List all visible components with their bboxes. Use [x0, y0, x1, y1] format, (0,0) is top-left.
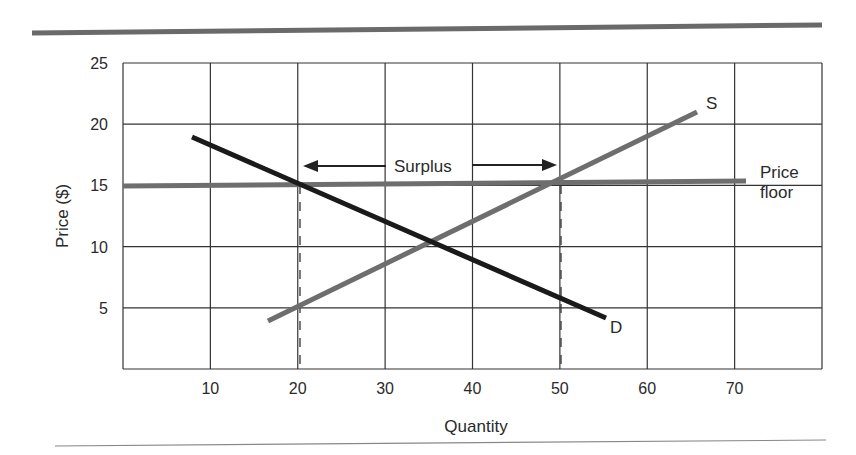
supply-curve: [268, 112, 697, 321]
x-axis-title: Quantity: [444, 417, 508, 436]
y-tick-label: 10: [90, 239, 108, 256]
price-floor-label-1: Price: [760, 163, 799, 182]
x-tick-label: 10: [201, 380, 219, 397]
x-tick-label: 70: [726, 380, 744, 397]
x-tick-label: 60: [638, 380, 656, 397]
y-tick-label: 15: [90, 177, 108, 194]
price-floor-label-2: floor: [760, 183, 793, 202]
axis-ticks: 10203040506070510152025: [90, 55, 743, 397]
y-tick-label: 25: [90, 55, 108, 72]
bottom-rule: [55, 440, 826, 446]
surplus-label: Surplus: [394, 157, 452, 176]
x-tick-label: 30: [376, 380, 394, 397]
demand-label: D: [610, 318, 622, 337]
supply-demand-chart: 10203040506070510152025 Surplus S D Pric…: [0, 0, 856, 455]
x-tick-label: 20: [289, 380, 307, 397]
y-axis-title: Price ($): [53, 184, 72, 248]
x-tick-label: 40: [464, 380, 482, 397]
y-tick-label: 20: [90, 116, 108, 133]
x-tick-label: 50: [551, 380, 569, 397]
supply-label: S: [706, 94, 717, 113]
y-tick-label: 5: [99, 300, 108, 317]
top-rule: [32, 25, 822, 33]
